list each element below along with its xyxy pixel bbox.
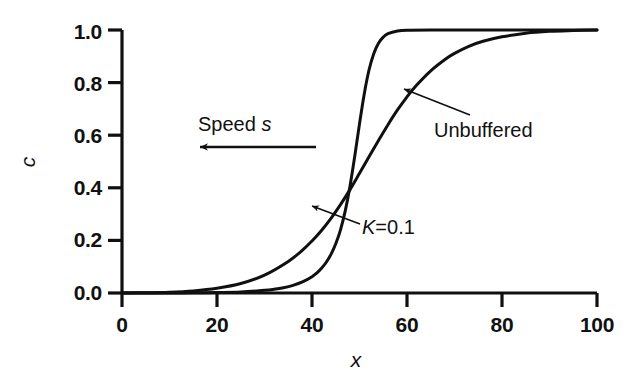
unbuffered-leader-icon — [404, 89, 470, 115]
series-line-k — [122, 30, 597, 293]
x-axis-ticks — [122, 293, 597, 307]
y-axis-ticks — [108, 30, 122, 293]
series-line-unbuffered — [122, 30, 597, 293]
chart-figure: 1.0 0.8 0.6 0.4 0.2 0.0 0 20 40 60 80 10… — [0, 0, 642, 386]
chart-canvas — [0, 0, 642, 386]
